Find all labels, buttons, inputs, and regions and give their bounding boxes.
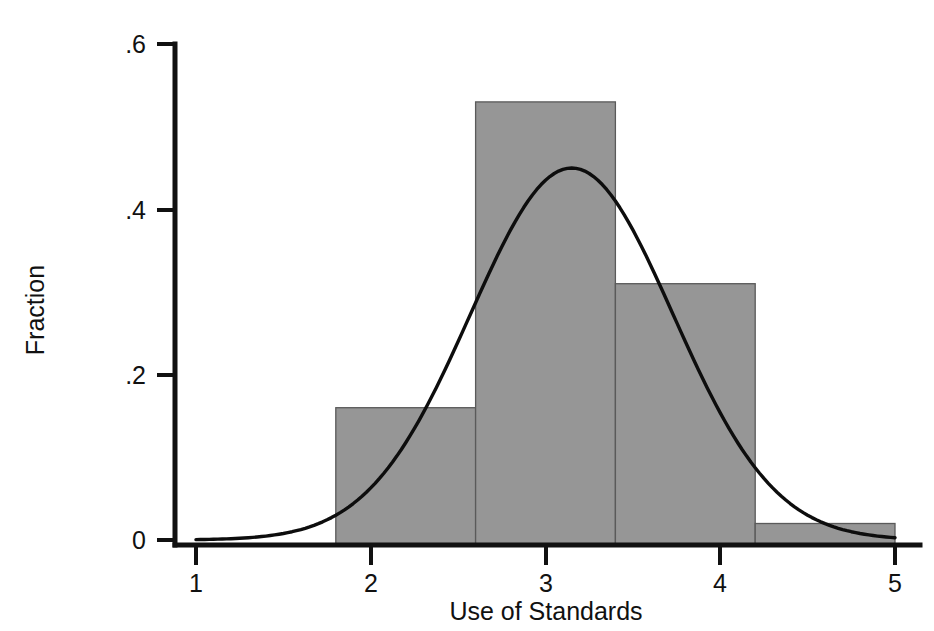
histogram-bars — [336, 102, 895, 545]
table-row — [336, 408, 476, 545]
y-tick-label: .2 — [125, 361, 146, 389]
x-axis-ticks: 1 2 3 4 5 — [189, 545, 902, 597]
y-tick-label: .4 — [125, 196, 146, 224]
x-tick-label: 3 — [539, 569, 553, 597]
y-tick-label: 0 — [132, 526, 146, 554]
table-row — [615, 284, 755, 545]
y-axis-title: Fraction — [21, 265, 49, 355]
x-tick-label: 4 — [713, 569, 727, 597]
table-row — [476, 102, 616, 545]
x-tick-label: 1 — [189, 569, 203, 597]
chart-canvas: 0 .2 .4 .6 1 2 3 4 5 Use of Standards Fr… — [0, 0, 934, 631]
caption — [0, 617, 934, 631]
histogram-figure: 0 .2 .4 .6 1 2 3 4 5 Use of Standards Fr… — [0, 0, 934, 631]
y-tick-label: .6 — [125, 30, 146, 58]
x-tick-label: 2 — [364, 569, 378, 597]
x-tick-label: 5 — [888, 569, 902, 597]
y-axis-ticks: 0 .2 .4 .6 — [125, 30, 175, 554]
